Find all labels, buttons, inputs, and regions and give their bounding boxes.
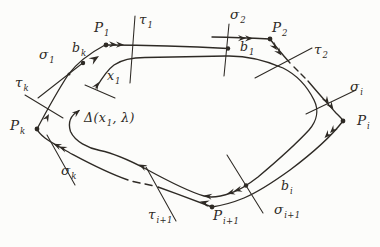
label-x1: x1 [107, 70, 121, 85]
arrow-after-P2-1 [270, 42, 280, 52]
transversal-tau2-line [255, 48, 312, 78]
transversal-sigmai-line [306, 90, 356, 114]
label-tau2: τ2 [314, 43, 328, 59]
point-bk-dot [81, 61, 85, 65]
label-tau-i1: τi+1 [148, 208, 173, 224]
figure-canvas: P1 τ1 σ2 P2 b1 τ2 σi Pi bk σ1 x1 τk Pk Δ… [0, 0, 380, 247]
label-sigma-i1: σi+1 [274, 203, 301, 219]
transversal-tauk-line [25, 95, 63, 118]
label-tau-k: τk [15, 76, 29, 92]
point-Pk-dot [35, 127, 40, 132]
point-Pi-dot [341, 119, 346, 124]
arrow-near-bi-2 [226, 188, 235, 196]
label-sigma-i: σi [350, 80, 363, 96]
arrow-sigmak-2 [52, 141, 62, 150]
outer-edge-dashed-gap [133, 182, 152, 186]
label-tau1: τ1 [139, 13, 153, 29]
label-sigma1: σ1 [39, 48, 55, 64]
arrow-near-bi-1 [233, 186, 242, 194]
cycle-diagram-svg [0, 0, 380, 247]
transversal-x1-line [85, 85, 115, 98]
label-delta-x1-lambda: Δ(x1, λ) [84, 112, 135, 127]
label-P-k: Pk [10, 119, 26, 135]
crossing-sigma1-edge-dot [68, 73, 71, 76]
label-P-i: Pi [357, 114, 370, 130]
label-P-i1: Pi+1 [213, 209, 239, 225]
label-b-k: bk [72, 42, 86, 57]
point-P2-dot [268, 37, 273, 42]
label-b-i: bi [281, 180, 293, 195]
transversal-tau1-line [130, 16, 135, 83]
label-b1: b1 [240, 41, 255, 56]
label-sigma2: σ2 [230, 8, 246, 24]
label-sigma-k: σk [61, 164, 77, 180]
outer-edge-P1-b1 [105, 45, 228, 49]
point-bi-dot [244, 183, 248, 187]
point-P1-dot [104, 43, 109, 48]
transversal-sigma1-line [38, 62, 84, 98]
label-P1: P1 [94, 21, 110, 37]
point-b1-dot [226, 46, 230, 50]
label-P2: P2 [272, 21, 288, 37]
